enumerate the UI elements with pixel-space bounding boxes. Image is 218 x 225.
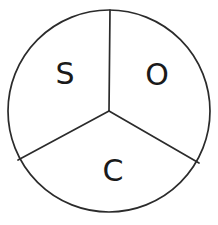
sector-label-s: S	[55, 56, 74, 91]
sector-circle-diagram: S O C	[0, 0, 218, 225]
sector-label-o: O	[145, 57, 169, 92]
diagram-canvas: S O C	[0, 0, 218, 225]
sector-label-c: C	[103, 153, 124, 188]
